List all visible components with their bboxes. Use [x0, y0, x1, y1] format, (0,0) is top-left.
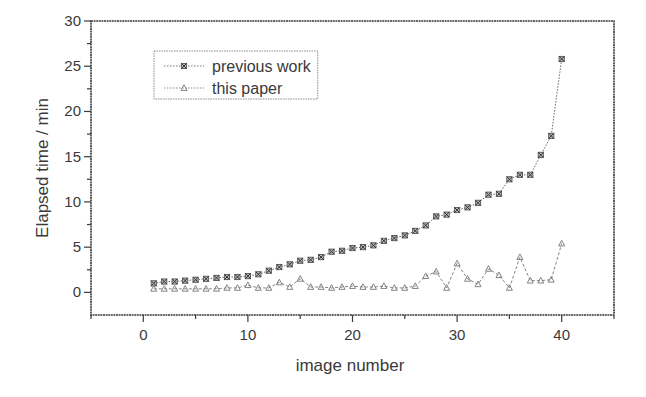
x-square-marker-icon [298, 258, 303, 263]
x-square-marker-icon [434, 214, 439, 219]
x-square-marker-icon [371, 243, 376, 248]
series-this-paper [151, 240, 565, 291]
x-square-marker-icon [517, 172, 522, 177]
x-square-marker-icon [287, 262, 292, 267]
x-square-marker-icon [475, 200, 480, 205]
y-axis-title: Elapsed time / min [33, 98, 52, 238]
x-square-marker-icon [183, 278, 188, 283]
x-square-marker-icon [350, 245, 355, 250]
x-square-marker-icon [528, 172, 533, 177]
y-tick-label: 0 [73, 283, 81, 300]
y-tick-label: 10 [64, 193, 81, 210]
x-square-marker-icon [181, 63, 186, 68]
x-tick-label: 10 [240, 326, 257, 343]
x-square-marker-icon [423, 223, 428, 228]
x-square-marker-icon [486, 192, 491, 197]
x-square-marker-icon [193, 277, 198, 282]
plot-border [91, 21, 614, 315]
x-square-marker-icon [381, 238, 386, 243]
legend-item-this-paper: this paper [164, 80, 283, 97]
x-square-marker-icon [224, 274, 229, 279]
x-square-marker-icon [203, 276, 208, 281]
x-axis: 010203040 [91, 315, 614, 343]
x-square-marker-icon [549, 133, 554, 138]
x-square-marker-icon [507, 177, 512, 182]
x-square-marker-icon [413, 228, 418, 233]
x-square-marker-icon [256, 272, 261, 277]
x-square-marker-icon [402, 233, 407, 238]
y-tick-label: 30 [64, 12, 81, 29]
x-square-marker-icon [245, 274, 250, 279]
x-tick-label: 30 [449, 326, 466, 343]
legend: previous work this paper [154, 51, 318, 99]
x-square-marker-icon [235, 274, 240, 279]
triangle-marker-icon [245, 282, 251, 288]
legend-label: previous work [212, 58, 312, 75]
legend-label: this paper [212, 80, 283, 97]
triangle-marker-icon [381, 283, 387, 289]
x-square-marker-icon [308, 257, 313, 262]
y-tick-label: 25 [64, 57, 81, 74]
x-square-marker-icon [455, 207, 460, 212]
x-square-marker-icon [496, 191, 501, 196]
y-tick-label: 20 [64, 102, 81, 119]
x-square-marker-icon [172, 279, 177, 284]
x-tick-label: 40 [553, 326, 570, 343]
x-square-marker-icon [319, 255, 324, 260]
y-axis: 051015202530 [64, 12, 91, 300]
x-square-marker-icon [538, 152, 543, 157]
series-line [154, 244, 562, 289]
x-square-marker-icon [360, 245, 365, 250]
x-square-marker-icon [392, 236, 397, 241]
x-tick-label: 20 [344, 326, 361, 343]
y-tick-label: 15 [64, 148, 81, 165]
legend-item-previous-work: previous work [164, 58, 312, 75]
y-tick-label: 5 [73, 238, 81, 255]
x-axis-title: image number [296, 356, 405, 375]
x-tick-label: 0 [139, 326, 147, 343]
x-square-marker-icon [465, 205, 470, 210]
plot-frame [91, 21, 614, 315]
x-square-marker-icon [329, 249, 334, 254]
x-square-marker-icon [559, 56, 564, 61]
x-square-marker-icon [339, 248, 344, 253]
triangle-marker-icon [496, 272, 502, 278]
x-square-marker-icon [214, 275, 219, 280]
x-square-marker-icon [266, 268, 271, 273]
x-square-marker-icon [444, 212, 449, 217]
x-square-marker-icon [162, 279, 167, 284]
triangle-marker-icon [548, 277, 554, 283]
line-chart: 010203040 051015202530 image number Elap… [0, 0, 646, 397]
x-square-marker-icon [277, 264, 282, 269]
